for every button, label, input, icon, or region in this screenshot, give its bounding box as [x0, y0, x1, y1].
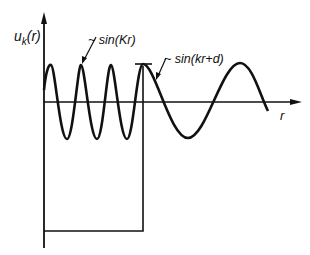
outer-annotation: ~ sin(kr+d)	[164, 52, 224, 66]
wavefunction-diagram: uk(r) ~ sin(Kr) ~ sin(kr+d) r	[0, 0, 310, 255]
y-axis	[41, 12, 47, 248]
potential-well	[44, 66, 143, 231]
diagram-svg: uk(r) ~ sin(Kr) ~ sin(kr+d) r	[0, 0, 310, 255]
inner-annotation: ~ sin(Kr)	[88, 33, 136, 47]
outer-wave	[143, 63, 268, 138]
x-axis-label: r	[280, 108, 285, 123]
y-axis-label: uk(r)	[14, 28, 41, 47]
